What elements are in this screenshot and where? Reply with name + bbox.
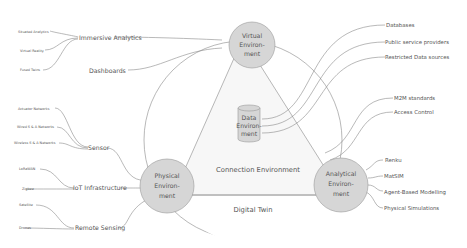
dashboards-label: Dashboards <box>89 67 126 74</box>
physical-node-line2: Environ- <box>154 182 180 189</box>
virtual-node-line2: Environ- <box>239 41 265 48</box>
virtual-node-line1: Virtual <box>242 32 262 39</box>
data-node-line2: Environ- <box>236 122 262 129</box>
fused-twins-label: Fused Twins <box>20 68 40 72</box>
physical-simulations-label: Physical Simulations <box>384 205 439 212</box>
virtual-environment-node: Virtual Environ- ment <box>229 22 275 68</box>
digital-twin-label: Digital Twin <box>234 206 273 214</box>
renku-label: Renku <box>385 157 402 163</box>
satellite-label: Satellite <box>19 203 33 207</box>
iot-infrastructure-label: IoT Infrastructure <box>73 184 127 191</box>
virtual-reality-label: Virtual Reality <box>20 49 44 53</box>
matsim-label: MatSIM <box>384 173 404 179</box>
analytical-node-line1: Analytical <box>326 170 357 178</box>
physical-environment-node: Physical Environ- ment <box>140 159 194 213</box>
digital-twin-lower-region <box>172 196 344 246</box>
m2m-standards-label: M2M standards <box>394 95 435 101</box>
situated-analytics-label: Situated Analytics <box>18 30 49 34</box>
physical-node-line1: Physical <box>154 172 179 180</box>
virtual-node-line3: ment <box>244 50 261 57</box>
analytical-node-line2: Environ- <box>328 180 354 187</box>
digital-twin-diagram: Data Environ- ment Virtual Environ- ment… <box>0 0 467 248</box>
analytical-environment-node: Analytical Environ- ment <box>314 158 368 212</box>
physical-node-line3: ment <box>159 192 176 199</box>
connection-environment-label: Connection Environment <box>216 166 300 174</box>
restricted-data-sources-label: Restricted Data sources <box>385 54 449 60</box>
wired-networks-label: Wired S & A Networks <box>17 125 54 129</box>
data-node-line1: Data <box>242 114 257 121</box>
sensor-label: Sensor <box>88 144 110 151</box>
databases-label: Databases <box>386 22 415 28</box>
lorawan-label: LoRaWAN <box>19 167 36 171</box>
remote-sensing-label: Remote Sensing <box>75 224 125 232</box>
data-environment-node: Data Environ- ment <box>236 105 262 142</box>
analytical-node-line3: ment <box>333 190 350 197</box>
access-control-label: Access Control <box>394 109 434 115</box>
wireless-networks-label: Wireless S & A Networks <box>14 141 56 145</box>
data-node-line3: ment <box>241 130 258 137</box>
drones-label: Drones <box>19 226 31 230</box>
immersive-analytics-label: Immersive Analytics <box>79 34 142 42</box>
agent-based-modelling-label: Agent-Based Modelling <box>384 189 446 196</box>
public-service-providers-label: Public service providers <box>385 39 449 46</box>
zigbee-label: Zigbee <box>22 187 34 191</box>
actuator-networks-label: Actuator Networks <box>18 107 50 111</box>
